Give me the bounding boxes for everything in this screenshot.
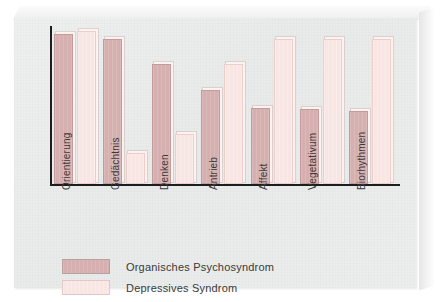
bar-group: [251, 28, 300, 184]
x-axis-tick-label-text: Affekt: [258, 163, 269, 190]
x-axis-tick-label: Biorhythmen: [349, 188, 398, 250]
bar-depressives-syndrom: [77, 31, 96, 184]
x-axis-tick-label: Gedächtnis: [103, 188, 152, 250]
legend-item: Organisches Psychosyndrom: [62, 256, 362, 277]
bar-depressives-syndrom: [126, 153, 145, 184]
x-axis-tick-label-text: Biorhythmen: [356, 132, 367, 190]
bar-depressives-syndrom: [323, 39, 342, 184]
legend-label-organisches-psychosyndrom: Organisches Psychosyndrom: [126, 261, 274, 273]
x-axis-tick-label: Orientierung: [54, 188, 103, 250]
y-axis-line: [50, 26, 52, 184]
x-axis-tick-label-text: Denken: [159, 154, 170, 190]
x-axis-tick-label: Antrieb: [201, 188, 250, 250]
x-axis-tick-label: Vegetativum: [300, 188, 349, 250]
paper-edge-right: [419, 8, 435, 291]
bar-depressives-syndrom: [274, 39, 293, 184]
bar-depressives-syndrom: [224, 64, 243, 184]
legend-swatch-organisches-psychosyndrom: [62, 259, 110, 274]
x-axis-tick-label: Denken: [152, 188, 201, 250]
chart-legend: Organisches Psychosyndrom Depressives Sy…: [62, 256, 362, 298]
x-axis-tick-label-text: Orientierung: [61, 133, 72, 190]
paper-sheet: OrientierungGedächtnisDenkenAntriebAffek…: [14, 18, 416, 288]
x-axis-tick-label-text: Vegetativum: [307, 133, 318, 190]
x-axis-tick-label: Affekt: [251, 188, 300, 250]
x-axis-tick-label-text: Antrieb: [208, 157, 219, 190]
legend-label-depressives-syndrom: Depressives Syndrom: [126, 282, 237, 294]
bar-groups: [54, 28, 398, 184]
bar-depressives-syndrom: [372, 39, 391, 184]
figure-page: OrientierungGedächtnisDenkenAntriebAffek…: [0, 0, 443, 302]
x-axis-tick-label-text: Gedächtnis: [110, 137, 121, 190]
legend-item: Depressives Syndrom: [62, 277, 362, 298]
bar-chart-plot-area: [50, 26, 400, 186]
bar-depressives-syndrom: [175, 134, 194, 184]
legend-swatch-depressives-syndrom: [62, 280, 110, 295]
x-axis-line: [50, 184, 400, 186]
x-axis-category-labels: OrientierungGedächtnisDenkenAntriebAffek…: [54, 188, 398, 250]
